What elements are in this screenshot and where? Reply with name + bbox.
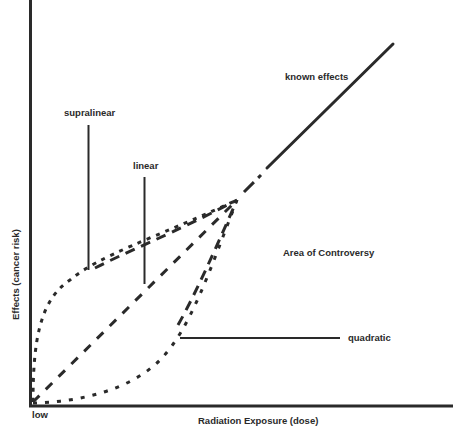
quadratic-curve-dashed [178,200,237,325]
area-of-controversy-label: Area of Controversy [283,247,374,258]
quadratic-label: quadratic [348,332,391,343]
dose-response-diagram [0,0,453,440]
x-axis-title: Radiation Exposure (dose) [198,415,318,426]
x-tick-low: low [32,409,48,420]
linear-label: linear [133,160,158,171]
known-effects-line [267,44,393,168]
y-axis-title: Effects (cancer risk) [10,229,21,320]
known-effects-dash [244,175,261,192]
known-effects-label: known effects [285,71,348,82]
linear-curve [33,200,237,402]
supralinear-label: supralinear [64,107,115,118]
